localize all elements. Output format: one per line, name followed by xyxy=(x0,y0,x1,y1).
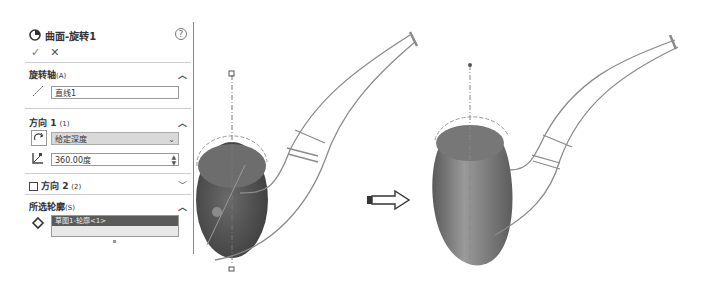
section-header-direction2[interactable]: 方向 2 (2) ﹀ xyxy=(29,179,189,191)
axis-line-icon xyxy=(31,84,45,98)
section-header-profiles[interactable]: 所选轮廓(S) ︿ xyxy=(29,200,189,212)
divider xyxy=(25,62,191,63)
profiles-listbox[interactable]: 草图1-轮廓<1> xyxy=(51,215,179,237)
chevron-down-icon[interactable]: ﹀ xyxy=(178,179,187,192)
panel-border xyxy=(193,22,194,254)
feature-title-row: 曲面-旋转1 ? xyxy=(29,28,189,42)
axis-field[interactable]: 直线1 xyxy=(51,86,179,99)
pipe-bowl-result xyxy=(432,63,512,265)
ok-button[interactable]: ✓ xyxy=(31,46,40,59)
section-shortcut: (2) xyxy=(71,183,81,191)
cancel-button[interactable]: ✕ xyxy=(50,46,59,59)
section-title-direction2: 方向 2 xyxy=(41,181,68,191)
chevron-up-icon[interactable]: ︿ xyxy=(178,200,187,213)
chevron-down-icon: ⌄ xyxy=(168,133,175,146)
angle-input[interactable]: 360.00度 ▲▼ xyxy=(51,153,179,166)
angle-value: 360.00度 xyxy=(55,156,91,165)
section-title-direction1: 方向 1 xyxy=(29,118,56,128)
chevron-up-icon[interactable]: ︿ xyxy=(178,116,187,129)
profile-list-item[interactable]: 草图1-轮廓<1> xyxy=(52,216,178,226)
feature-title: 曲面-旋转1 xyxy=(45,28,96,43)
divider xyxy=(25,194,191,195)
resize-handle[interactable] xyxy=(113,240,116,243)
section-title-axis: 旋转轴 xyxy=(29,70,56,80)
direction2-checkbox[interactable] xyxy=(29,182,38,191)
revolve-surface-icon xyxy=(29,29,41,41)
chevron-up-icon[interactable]: ︿ xyxy=(178,68,187,81)
section-shortcut: (1) xyxy=(60,120,70,128)
property-manager-panel: 曲面-旋转1 ? ✓ ✕ 旋转轴(A) ︿ 直线1 方向 1 (1) ︿ 给定深… xyxy=(25,22,193,254)
pipe-stem-sketch xyxy=(495,35,678,235)
model-viewport-before[interactable] xyxy=(195,30,445,280)
reverse-direction-icon[interactable] xyxy=(31,130,47,146)
contour-icon xyxy=(31,216,45,230)
section-shortcut: (A) xyxy=(56,72,66,80)
end-condition-select[interactable]: 给定深度 ⌄ xyxy=(51,132,179,145)
section-title-profiles: 所选轮廓 xyxy=(29,202,65,212)
section-header-axis[interactable]: 旋转轴(A) ︿ xyxy=(29,68,189,80)
angle-icon xyxy=(31,151,45,165)
model-viewport-after[interactable] xyxy=(410,35,706,280)
help-button[interactable]: ? xyxy=(175,28,187,40)
section-shortcut: (S) xyxy=(65,204,75,212)
end-condition-value: 给定深度 xyxy=(55,135,87,144)
divider xyxy=(25,108,191,109)
spinner-icon[interactable]: ▲▼ xyxy=(171,154,176,166)
divider xyxy=(25,173,191,174)
section-header-direction1[interactable]: 方向 1 (1) ︿ xyxy=(29,116,189,128)
right-arrow-icon xyxy=(365,188,413,212)
